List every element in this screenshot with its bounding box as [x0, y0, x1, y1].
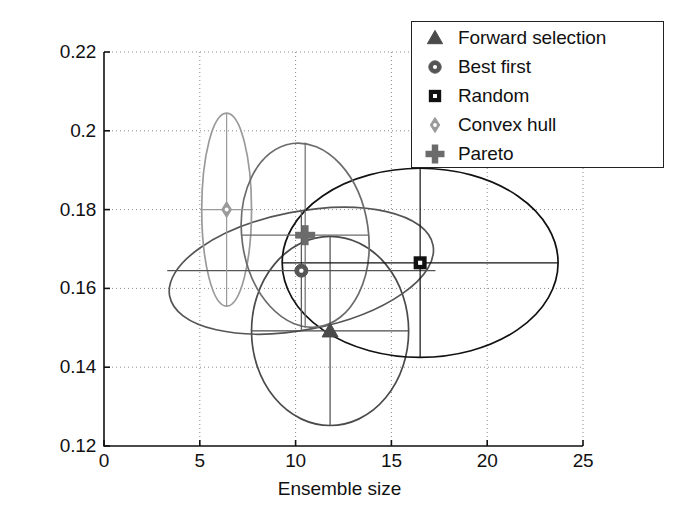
data-marker[interactable]	[295, 264, 308, 277]
y-tick-label: 0.2	[24, 120, 96, 142]
legend-item[interactable]: Convex hull	[412, 111, 663, 138]
circle-icon	[412, 54, 458, 80]
data-marker[interactable]	[295, 225, 315, 245]
x-tick-label: 0	[99, 450, 109, 472]
legend-label: Forward selection	[458, 27, 606, 49]
legend-box: Forward selectionBest firstRandomConvex …	[411, 21, 664, 168]
y-tick-label: 0.18	[24, 199, 96, 221]
legend-label: Convex hull	[458, 114, 556, 136]
y-tick-label: 0.14	[24, 356, 96, 378]
plus-icon	[412, 141, 458, 167]
legend-item[interactable]: Best first	[412, 53, 663, 80]
chart-figure: 0510152025 0.120.140.160.180.20.22 Ensem…	[0, 0, 679, 513]
diamond-icon	[412, 112, 458, 138]
legend-label: Random	[458, 85, 529, 107]
square-icon	[412, 83, 458, 109]
legend-label: Best first	[458, 56, 531, 78]
legend-item[interactable]: Forward selection	[412, 24, 663, 51]
y-tick-label: 0.16	[24, 277, 96, 299]
legend-item[interactable]: Pareto	[412, 140, 663, 167]
x-tick-label: 15	[381, 450, 402, 472]
triangle-icon	[412, 25, 458, 51]
legend-label: Pareto	[458, 143, 513, 165]
x-tick-label: 25	[573, 450, 594, 472]
legend-item[interactable]: Random	[412, 82, 663, 109]
x-tick-label: 10	[285, 450, 306, 472]
x-tick-label: 20	[477, 450, 498, 472]
x-axis-label: Ensemble size	[0, 478, 679, 500]
x-tick-label: 5	[195, 450, 205, 472]
y-tick-label: 0.22	[24, 41, 96, 63]
data-marker[interactable]	[222, 202, 232, 218]
y-tick-label: 0.12	[24, 435, 96, 457]
data-marker[interactable]	[414, 256, 427, 269]
